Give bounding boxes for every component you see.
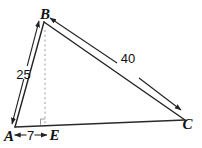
diagram-canvas: B A E C 25 40 7 <box>0 0 202 148</box>
length-label-ab: 25 <box>16 67 30 82</box>
length-label-ae: 7 <box>27 128 34 143</box>
length-label-bc: 40 <box>121 51 135 66</box>
vertex-label-c: C <box>182 116 193 132</box>
vertex-label-a: A <box>3 128 14 144</box>
dimension-line-bc-left <box>50 18 117 63</box>
dimension-line-bc-right <box>139 78 181 110</box>
vertex-label-e: E <box>48 127 59 143</box>
triangle-figure: B A E C 25 40 7 <box>0 0 202 148</box>
right-angle-marker <box>41 119 46 125</box>
vertex-label-b: B <box>39 6 50 22</box>
side-bc <box>44 22 185 120</box>
